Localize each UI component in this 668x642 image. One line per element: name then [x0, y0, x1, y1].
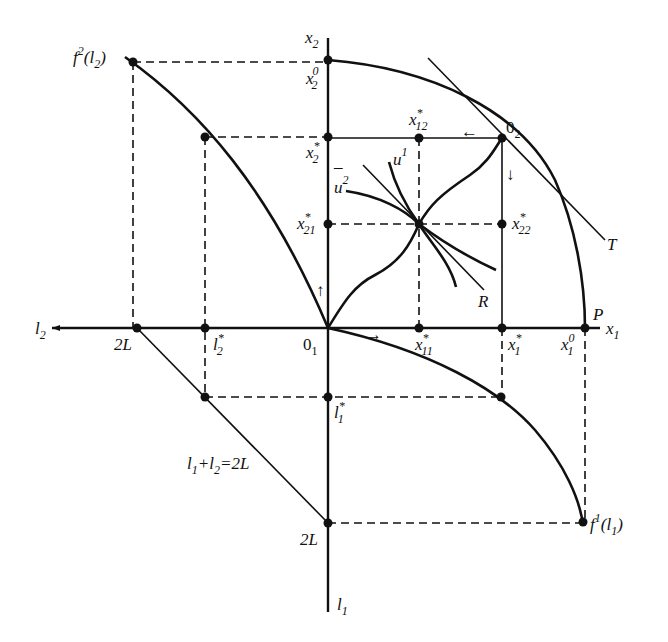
label-u2-bar-overline: ¯: [333, 166, 343, 185]
label-origin-O1: 01: [303, 335, 318, 358]
point-f1-max: [579, 518, 588, 527]
label-2L-vertical: 2L: [300, 530, 318, 549]
point-l1-star: [324, 393, 333, 402]
label-f1-l1: f1(l1): [590, 511, 623, 538]
production-function-f1: [328, 328, 583, 525]
point-2L-horizontal: [133, 324, 142, 333]
labor-constraint-line: [137, 328, 328, 523]
point-x1-star: [498, 324, 507, 333]
point-x22-star: [498, 220, 507, 229]
label-x11-star: x*11: [414, 331, 433, 358]
label-x1-star: x*1: [507, 331, 522, 358]
point-P: [581, 324, 590, 333]
point-f2-star: [201, 133, 210, 142]
point-x2-0: [324, 56, 333, 65]
point-x21-star: [324, 220, 333, 229]
point-equilibrium-E: [415, 220, 424, 229]
point-2L-vertical: [324, 519, 333, 528]
label-l1-axis: l1: [337, 595, 348, 618]
label-l2-star: l*2: [213, 331, 224, 358]
label-x1-0: x01: [560, 331, 575, 358]
label-P: P: [592, 305, 603, 324]
arrow-right-icon: →: [365, 325, 382, 344]
arrow-down-icon: ↓: [506, 165, 515, 184]
label-x2-axis: x2: [304, 28, 319, 51]
label-origin-O2: 02: [506, 118, 521, 141]
arrow-up-icon: ↑: [316, 281, 325, 300]
label-l1-star: l*1: [334, 399, 345, 426]
label-x2-star: x*2: [305, 139, 320, 166]
label-f2-l2: f2(l2): [73, 44, 106, 71]
price-tangent-line-T: [428, 58, 605, 240]
point-x2-star: [324, 133, 333, 142]
label-R: R: [477, 292, 489, 311]
label-2L-horizontal: 2L: [114, 335, 132, 354]
label-x21-star: x*21: [296, 210, 316, 237]
label-T: T: [607, 235, 618, 254]
label-x2-0: x02: [305, 64, 319, 92]
label-labor-constraint: l1+l2=2L: [187, 454, 249, 477]
diagram-canvas: ↑ ← ↓ → x2 x1 l2 l1 f2(l2) f1(l1) x02 x*…: [0, 0, 668, 642]
label-x12-star: x*12: [408, 106, 428, 133]
point-f1-star: [497, 393, 506, 402]
label-l2-axis: l2: [35, 319, 46, 342]
indifference-curve-u2bar: [346, 191, 496, 270]
point-x12-star: [415, 134, 424, 143]
point-constraint-star: [201, 393, 210, 402]
label-u1: u1: [393, 145, 408, 169]
point-f2-max: [129, 58, 138, 67]
contract-curve: [328, 138, 502, 328]
label-x22-star: x*22: [511, 210, 531, 237]
point-l2-star: [201, 324, 210, 333]
label-x1-axis: x1: [605, 319, 620, 342]
diagram-svg: ↑ ← ↓ → x2 x1 l2 l1 f2(l2) f1(l1) x02 x*…: [0, 0, 668, 642]
production-function-f2: [125, 57, 328, 328]
arrow-left-icon: ←: [461, 122, 478, 141]
l2-axis-arrow-icon: [52, 325, 60, 331]
